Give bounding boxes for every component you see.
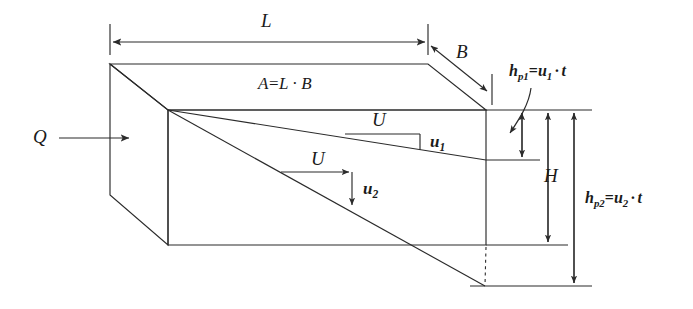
label-length-L: L [261, 11, 272, 30]
label-settling-depth-hp2: hp2=u2·t [585, 190, 642, 209]
hp1-symbol: h [509, 62, 518, 79]
hp2-velocity: u [614, 189, 623, 206]
u2-subscript: 2 [372, 188, 378, 201]
dashed-drop-line [485, 247, 486, 285]
area-eq-lhs: A [258, 74, 269, 93]
hp2-subscript: p2 [594, 197, 605, 209]
area-eq-rhs-second: B [301, 74, 312, 93]
figure-container: Q L B H A=L·B U U u1 u2 hp1=u1·t hp2=u2·… [0, 0, 693, 309]
label-velocity-lower-U: U [311, 149, 325, 168]
hp1-velocity: u [538, 62, 547, 79]
velocity-vector-lower [281, 172, 352, 205]
area-eq-rhs-first: L [279, 74, 289, 93]
hp2-time: t [638, 189, 642, 206]
hp1-equals: = [529, 62, 538, 79]
label-breadth-B: B [456, 42, 468, 61]
hp2-dot: · [628, 189, 637, 206]
label-inflow-Q: Q [33, 127, 47, 146]
u1-subscript: 1 [439, 141, 445, 154]
tank-left-face [110, 64, 168, 245]
tank-diagram-svg [0, 0, 693, 309]
label-height-H: H [544, 166, 558, 185]
hp1-time: t [562, 62, 566, 79]
label-area-equation: A=L·B [258, 75, 312, 92]
label-settling-velocity-u1: u1 [430, 133, 445, 154]
label-settling-depth-hp1: hp1=u1·t [509, 63, 566, 82]
tank-front-face [168, 110, 486, 245]
area-eq-dot: · [289, 74, 301, 93]
hp2-symbol: h [585, 189, 594, 206]
label-velocity-upper-U: U [372, 110, 386, 129]
label-settling-velocity-u2: u2 [363, 180, 378, 201]
hp2-equals: = [605, 189, 614, 206]
hp1-subscript: p1 [518, 70, 529, 82]
hp1-dot: · [552, 62, 561, 79]
area-eq-equals: = [269, 74, 279, 93]
